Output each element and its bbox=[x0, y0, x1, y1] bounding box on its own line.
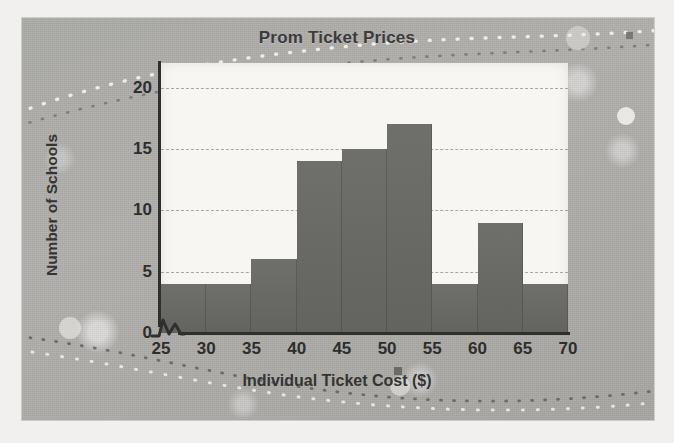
x-tick-label-65: 65 bbox=[503, 339, 543, 359]
gridline-y-20 bbox=[161, 88, 568, 89]
histogram-bar bbox=[251, 259, 296, 333]
histogram-bar bbox=[342, 149, 387, 333]
plot-area bbox=[161, 63, 568, 333]
y-tick-label-15: 15 bbox=[112, 139, 152, 159]
x-tick-label-70: 70 bbox=[548, 339, 588, 359]
histogram-bar bbox=[206, 284, 251, 333]
x-axis-line bbox=[178, 332, 570, 335]
x-tick-label-55: 55 bbox=[412, 339, 452, 359]
x-axis-label: Individual Ticket Cost ($) bbox=[0, 372, 674, 390]
histogram-bar bbox=[387, 124, 432, 333]
x-tick-label-25: 25 bbox=[141, 339, 181, 359]
histogram-bar bbox=[523, 284, 568, 333]
histogram-bar bbox=[297, 161, 342, 333]
x-tick-label-30: 30 bbox=[186, 339, 226, 359]
x-tick-label-45: 45 bbox=[322, 339, 362, 359]
y-tick-label-10: 10 bbox=[112, 200, 152, 220]
plot-inner bbox=[161, 63, 568, 333]
x-tick-label-35: 35 bbox=[231, 339, 271, 359]
y-axis-label: Number of Schools bbox=[43, 105, 61, 305]
x-tick-label-50: 50 bbox=[367, 339, 407, 359]
y-tick-label-5: 5 bbox=[112, 262, 152, 282]
histogram-bar bbox=[478, 223, 523, 333]
histogram-bar bbox=[432, 284, 477, 333]
chart-page: Prom Ticket Prices 05101520 253035404550… bbox=[0, 0, 674, 443]
zigzag-break-icon bbox=[150, 312, 186, 338]
y-axis-line bbox=[158, 61, 161, 327]
chart-title: Prom Ticket Prices bbox=[0, 28, 674, 48]
x-tick-label-60: 60 bbox=[458, 339, 498, 359]
y-tick-label-20: 20 bbox=[112, 78, 152, 98]
x-tick-label-40: 40 bbox=[277, 339, 317, 359]
